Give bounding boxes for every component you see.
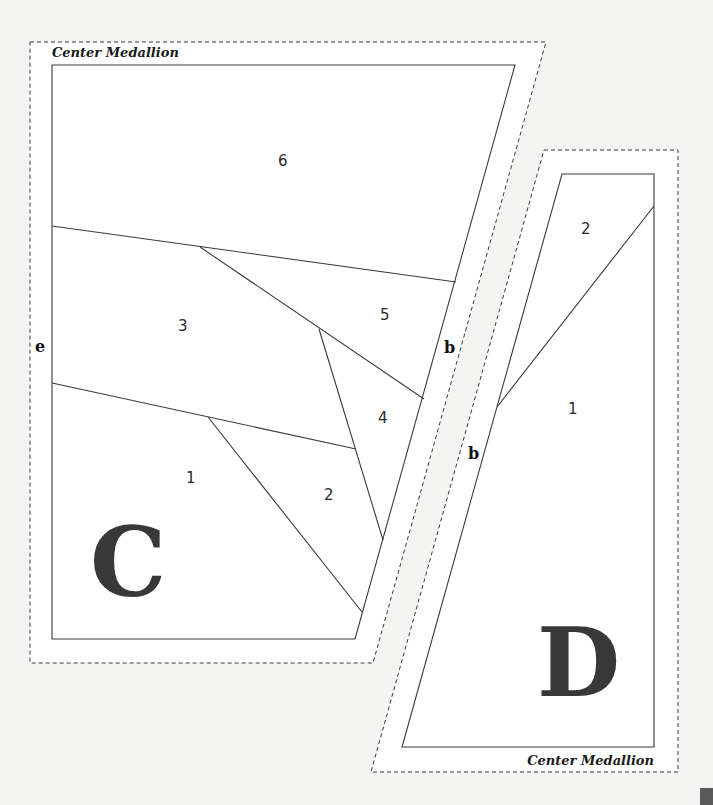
unit-c-edge-label-b: b [444, 338, 455, 357]
unit-c-letter: C [90, 506, 166, 619]
piece-c6-number: 6 [278, 152, 288, 170]
unit-d-edge-label-b: b [468, 444, 479, 463]
pattern-diagram: Center Medallion 6 3 5 4 1 2 e b C 2 1 b… [0, 0, 713, 805]
piece-d2-number: 2 [581, 220, 591, 238]
piece-c4-number: 4 [378, 409, 388, 427]
unit-c-edge-label-e: e [35, 337, 45, 356]
piece-d1-number: 1 [568, 400, 578, 418]
unit-d-letter: D [537, 606, 620, 719]
piece-c1-number: 1 [186, 469, 196, 487]
unit-d-title: Center Medallion [527, 753, 654, 768]
unit-c-title: Center Medallion [52, 45, 179, 60]
piece-c3-number: 3 [178, 317, 188, 335]
pattern-canvas: Center Medallion 6 3 5 4 1 2 e b C 2 1 b… [0, 0, 713, 805]
piece-c2-number: 2 [324, 486, 334, 504]
page-corner-marker [700, 788, 713, 805]
piece-c5-number: 5 [380, 306, 390, 324]
